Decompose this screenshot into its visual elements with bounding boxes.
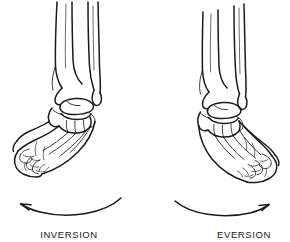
right-panel-illustration: EVERSION (0, 0, 290, 242)
right-panel-label: EVERSION (217, 229, 271, 240)
right-leg-bones (200, 4, 247, 110)
anatomy-figure: INVERSION (0, 0, 290, 242)
right-eversion-arrow (175, 201, 269, 216)
